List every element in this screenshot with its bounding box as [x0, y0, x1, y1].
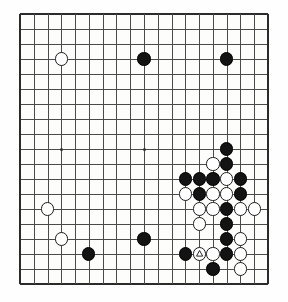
stone-black[interactable]: [179, 172, 192, 185]
stone-black[interactable]: [220, 232, 233, 245]
stone-black[interactable]: [234, 172, 247, 185]
grid-line-vertical: [19, 14, 21, 284]
grid-line-vertical: [267, 14, 269, 284]
stone-black[interactable]: [220, 52, 233, 65]
triangle-mark-icon: [194, 248, 205, 259]
stone-white[interactable]: [193, 202, 206, 215]
go-board[interactable]: [20, 14, 268, 284]
stone-white[interactable]: [220, 172, 233, 185]
stone-white[interactable]: [193, 217, 206, 230]
grid-line-vertical: [254, 14, 255, 284]
grid-line-vertical: [213, 14, 214, 284]
grid-line-vertical: [172, 14, 173, 284]
stone-black[interactable]: [220, 157, 233, 170]
grid-line-vertical: [103, 14, 104, 284]
go-board-container[interactable]: [0, 0, 288, 302]
grid-line-vertical: [89, 14, 90, 284]
stone-white[interactable]: [234, 232, 247, 245]
stone-white[interactable]: [206, 187, 219, 200]
stone-black[interactable]: [206, 172, 219, 185]
stone-white[interactable]: [55, 52, 68, 65]
grid-line-vertical: [75, 14, 76, 284]
stone-white[interactable]: [234, 262, 247, 275]
stone-white[interactable]: [234, 202, 247, 215]
grid-line-vertical: [199, 14, 200, 284]
stone-white[interactable]: [179, 187, 192, 200]
stone-white[interactable]: [55, 232, 68, 245]
grid-line-vertical: [158, 14, 159, 284]
grid-line-vertical: [130, 14, 131, 284]
stone-white[interactable]: [234, 247, 247, 260]
stone-black[interactable]: [220, 142, 233, 155]
grid-line-vertical: [185, 14, 186, 284]
star-point: [60, 148, 63, 151]
stone-black[interactable]: [220, 247, 233, 260]
stone-black[interactable]: [193, 172, 206, 185]
stone-black[interactable]: [137, 232, 150, 245]
stone-white[interactable]: [220, 187, 233, 200]
stone-white[interactable]: [206, 157, 219, 170]
star-point: [143, 148, 146, 151]
stone-white[interactable]: [206, 247, 219, 260]
stone-black[interactable]: [234, 187, 247, 200]
stone-black[interactable]: [193, 187, 206, 200]
stone-white[interactable]: [248, 202, 261, 215]
grid-line-vertical: [34, 14, 35, 284]
grid-line-vertical: [116, 14, 117, 284]
stone-black[interactable]: [137, 52, 150, 65]
stone-black[interactable]: [220, 202, 233, 215]
stone-white[interactable]: [193, 247, 206, 260]
stone-black[interactable]: [220, 217, 233, 230]
stone-black[interactable]: [82, 247, 95, 260]
stone-white[interactable]: [206, 202, 219, 215]
stone-white[interactable]: [41, 202, 54, 215]
stone-black[interactable]: [206, 262, 219, 275]
stone-black[interactable]: [179, 247, 192, 260]
grid-line-vertical: [48, 14, 49, 284]
screenshot-canvas: [0, 0, 288, 302]
